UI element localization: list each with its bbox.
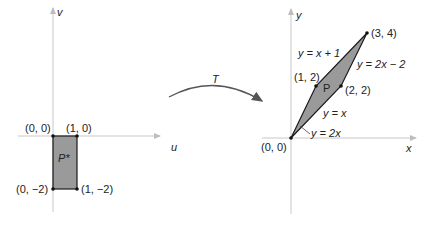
point-0-neg2 [51,187,55,191]
line-label-y-x-plus-1: y = x + 1 [298,47,340,59]
transform-label: T [212,73,219,85]
diagram-canvas [0,0,424,225]
point-label-0-neg2: (0, −2) [16,183,48,195]
point-3-4 [365,31,369,35]
v-axis-label: v [57,6,63,18]
line-label-y-2x-minus-2: y = 2x − 2 [357,58,405,70]
point-label-1-neg2: (1, −2) [81,183,113,195]
transform-arrow [169,85,262,101]
region-p-label: P [323,82,330,94]
y-2x-pointer [300,126,310,134]
point-label-3-4: (3, 4) [371,27,397,39]
x-axis-label: x [406,142,412,154]
region-p-star-label: P* [58,152,70,164]
line-label-y-2x: y = 2x [311,127,341,139]
line-label-y-x: y = x [323,107,347,119]
u-axis-label: u [171,141,177,153]
point-label-2-2: (2, 2) [345,84,371,96]
point-label-origin: (0, 0) [261,141,287,153]
left-plot [18,8,160,212]
point-1-neg2 [75,187,79,191]
point-2-2 [339,84,343,88]
point-1-0 [75,134,79,138]
point-origin [289,136,293,140]
point-label-1-0: (1, 0) [66,122,92,134]
point-1-2 [314,84,318,88]
point-label-1-2: (1, 2) [294,71,320,83]
point-0-0 [51,134,55,138]
point-label-0-0: (0, 0) [25,122,51,134]
y-axis-label: y [296,9,302,21]
